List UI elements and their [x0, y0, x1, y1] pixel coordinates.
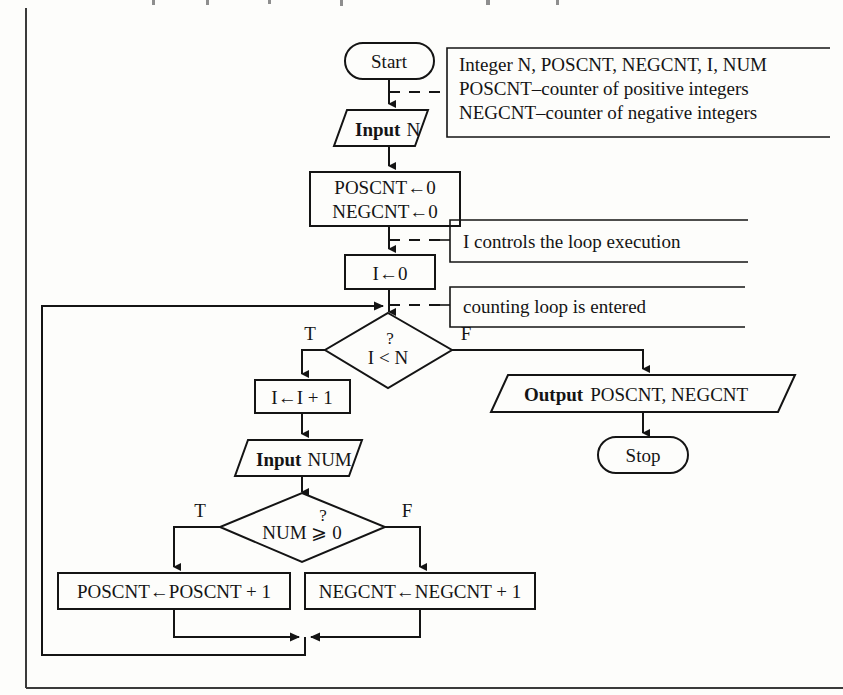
node-init-counters-line2: NEGCNT←0 [332, 201, 438, 222]
node-decision-sign-true-label: T [194, 500, 206, 521]
node-input-num[interactable]: InputNUM [235, 440, 362, 476]
node-input-n-operand: N [406, 119, 420, 140]
annotation-declarations-line2: POSCNT–counter of positive integers [459, 78, 749, 99]
node-decision-sign-false-label: F [402, 500, 413, 521]
node-init-i-label: I←0 [373, 263, 408, 284]
node-increment-negcnt[interactable]: NEGCNT←NEGCNT + 1 [305, 573, 535, 609]
annotation-loop-entry-line1: counting loop is entered [463, 296, 647, 317]
node-init-i[interactable]: I←0 [345, 255, 435, 289]
node-decision-loop-true-label: T [304, 323, 316, 344]
node-increment-poscnt-label: POSCNT←POSCNT + 1 [77, 581, 271, 602]
node-start[interactable]: Start [345, 43, 434, 79]
node-start-label: Start [371, 51, 408, 72]
node-input-n[interactable]: InputN [334, 110, 428, 146]
node-increment-negcnt-label: NEGCNT←NEGCNT + 1 [319, 581, 521, 602]
annotation-declarations-line1: Integer N, POSCNT, NEGCNT, I, NUM [459, 54, 767, 75]
node-increment-poscnt[interactable]: POSCNT←POSCNT + 1 [58, 573, 290, 609]
annotation-loop-control-line1: I controls the loop execution [463, 231, 681, 252]
annotation-declarations-line3: NEGCNT–counter of negative integers [459, 102, 757, 123]
node-decision-loop-false-label: F [461, 323, 472, 344]
flowchart-page: Start InputN POSCNT←0 NEGCNT←0 I←0 ? I <… [0, 0, 843, 695]
annotation-loop-control: I controls the loop execution [450, 220, 748, 262]
node-stop-label: Stop [626, 445, 661, 466]
node-input-num-operand: NUM [307, 449, 351, 470]
node-output-operands: POSCNT, NEGCNT [590, 384, 748, 405]
node-input-num-keyword: Input [256, 449, 302, 470]
node-decision-loop-label: I < N [368, 347, 409, 368]
node-decision-sign-label: NUM ⩾ 0 [262, 522, 341, 543]
annotation-declarations: Integer N, POSCNT, NEGCNT, I, NUM POSCNT… [447, 48, 830, 137]
node-input-n-keyword: Input [355, 119, 401, 140]
node-output[interactable]: OutputPOSCNT, NEGCNT [491, 375, 795, 412]
node-decision-loop[interactable]: ? I < N T F [304, 313, 471, 388]
node-output-text: OutputPOSCNT, NEGCNT [524, 384, 749, 405]
node-increment-i-label: I←I + 1 [271, 387, 332, 408]
node-decision-sign[interactable]: ? NUM ⩾ 0 T F [194, 493, 412, 562]
node-input-n-text: InputN [355, 119, 420, 140]
node-output-keyword: Output [524, 384, 584, 405]
node-init-counters-line1: POSCNT←0 [334, 177, 435, 198]
connector-lines [42, 79, 643, 655]
node-init-counters[interactable]: POSCNT←0 NEGCNT←0 [310, 172, 460, 226]
cropped-caption-artifact [152, 0, 559, 6]
node-stop[interactable]: Stop [598, 437, 688, 473]
flowchart-canvas: Start InputN POSCNT←0 NEGCNT←0 I←0 ? I <… [0, 0, 843, 695]
node-input-num-text: InputNUM [256, 449, 352, 470]
annotation-loop-entry: counting loop is entered [450, 287, 745, 327]
node-decision-loop-qmark: ? [386, 329, 394, 348]
node-increment-i[interactable]: I←I + 1 [255, 380, 350, 413]
